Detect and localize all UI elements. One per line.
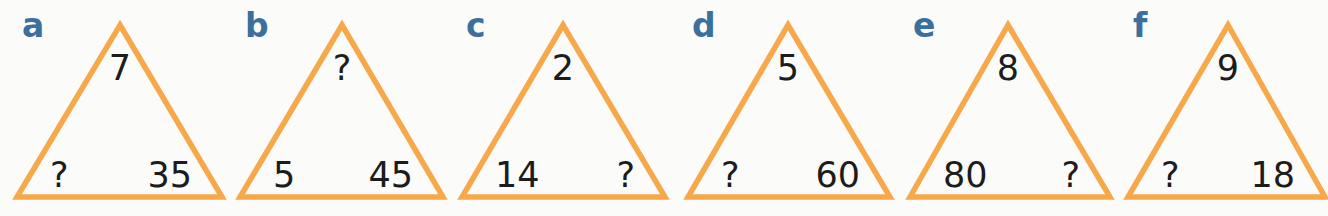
bottom-right-value: 18 bbox=[1250, 157, 1295, 193]
bottom-left-value: ? bbox=[1161, 157, 1180, 193]
triangle-shape bbox=[0, 0, 1328, 216]
top-value: 9 bbox=[1217, 50, 1239, 86]
puzzle-f: f 9 ? 18 bbox=[0, 0, 1328, 216]
